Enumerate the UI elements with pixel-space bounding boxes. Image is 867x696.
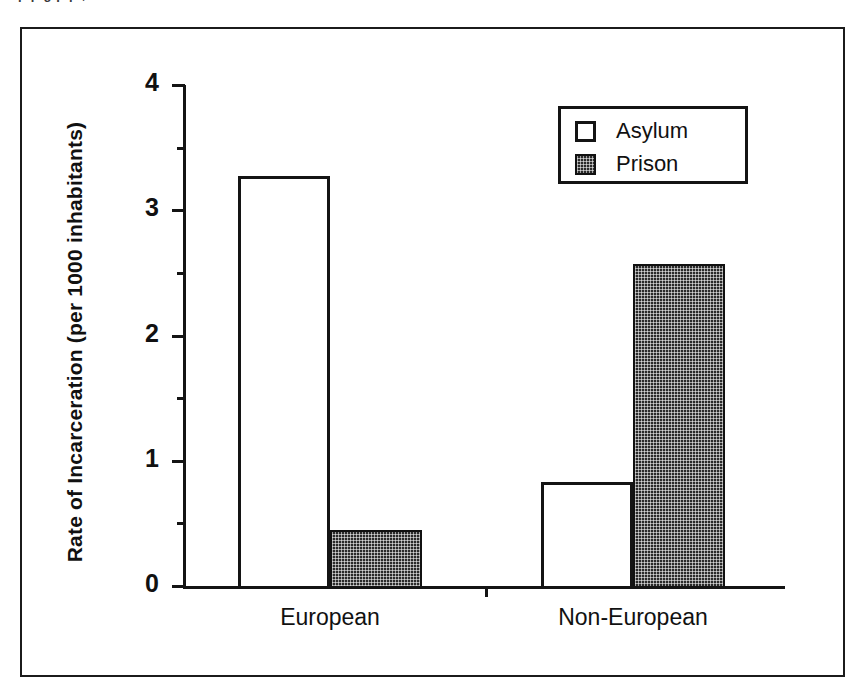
y-tick-label: 2 <box>119 319 159 348</box>
y-tick-major <box>172 585 185 588</box>
bar-asylum-european <box>238 176 330 586</box>
y-axis-title: Rate of Incarceration (per 1000 inhabita… <box>63 107 87 577</box>
bar-asylum-non-european <box>541 482 633 586</box>
x-axis-line <box>183 586 785 589</box>
y-tick-label: 1 <box>119 444 159 473</box>
y-tick-minor <box>177 272 185 275</box>
bar-prison-non-european <box>633 264 725 586</box>
legend-entry-prison: Prison <box>575 150 678 178</box>
y-tick-label: 3 <box>119 193 159 222</box>
legend-label-asylum: Asylum <box>616 118 688 144</box>
y-tick-minor <box>177 147 185 150</box>
legend-swatch-asylum-icon <box>575 121 596 142</box>
bar-prison-european <box>330 530 422 586</box>
y-tick-major <box>172 209 185 212</box>
legend-entry-asylum: Asylum <box>575 117 688 145</box>
legend-label-prison: Prison <box>616 151 678 177</box>
y-tick-major <box>172 335 185 338</box>
cropped-caption-text: p p g p p , <box>18 0 86 2</box>
cropped-caption-sliver: p p g p p , <box>0 0 867 16</box>
y-tick-minor <box>177 522 185 525</box>
y-tick-label: 0 <box>119 569 159 598</box>
x-category-label-european: European <box>180 604 480 631</box>
x-tick-center <box>485 586 488 597</box>
x-category-label-non-european: Non-European <box>483 604 783 631</box>
chart-legend: Asylum Prison <box>558 106 748 184</box>
y-tick-minor <box>177 397 185 400</box>
y-tick-label: 4 <box>119 68 159 97</box>
legend-swatch-prison-icon <box>575 154 596 175</box>
y-tick-major <box>172 460 185 463</box>
y-tick-major <box>172 84 185 87</box>
